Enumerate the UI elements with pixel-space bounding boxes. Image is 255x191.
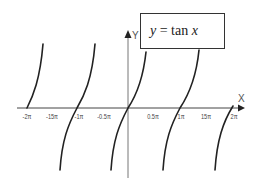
tick-label-neg-2pi: -2π — [23, 112, 32, 121]
legend-var: x — [192, 23, 198, 38]
tick-label-neg-0-5pi: -0.5π — [97, 112, 111, 121]
legend-box: y = tan x — [140, 13, 225, 49]
tick-label-neg-1-5pi: -15π — [46, 112, 58, 121]
tick-label-1-5pi: 15π — [201, 112, 211, 121]
tick-label-1pi: 1π — [178, 112, 185, 121]
tick-label-0-5pi: 0.5π — [147, 112, 159, 121]
x-axis-arrow-icon — [238, 105, 245, 112]
y-axis-label: Y — [132, 30, 139, 41]
legend-label: y = tan x — [150, 23, 198, 39]
tick-label-2pi: 2π — [231, 112, 238, 121]
tick-label-neg-1pi: -1π — [75, 112, 84, 121]
tan-curve — [27, 44, 233, 170]
legend-eq: = tan — [156, 23, 192, 38]
x-axis-label: X — [238, 93, 245, 104]
y-axis-arrow-icon — [125, 30, 132, 38]
